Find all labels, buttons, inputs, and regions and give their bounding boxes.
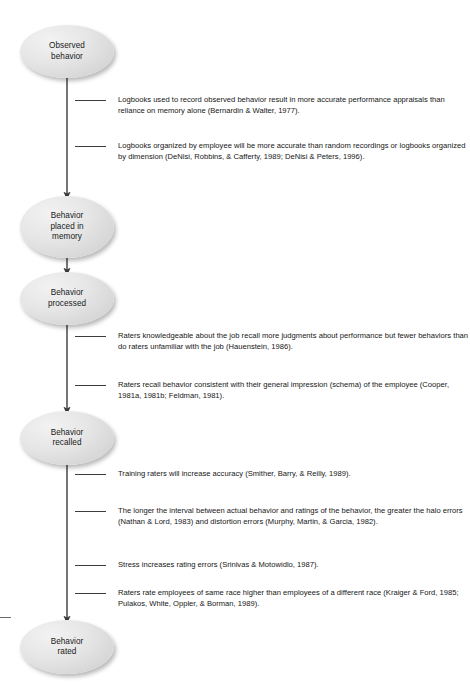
annotation-text: Logbooks organized by employee will be m… <box>118 141 470 162</box>
node-behavior-rated[interactable]: Behaviorrated <box>20 620 114 674</box>
node-behavior-processed[interactable]: Behaviorprocessed <box>20 272 114 325</box>
page-edge-mark <box>0 617 11 618</box>
annotation-text: Raters rate employees of same race highe… <box>118 588 470 609</box>
node-behavior-recalled-label: Behaviorrecalled <box>51 428 84 449</box>
annotation-text: Raters knowledgeable about the job recal… <box>118 331 470 352</box>
annotation-text: Raters recall behavior consistent with t… <box>118 380 470 401</box>
annotation-text: Training raters will increase accuracy (… <box>118 469 470 480</box>
annotation-tick-icon <box>75 565 106 566</box>
annotation-tick-icon <box>75 385 106 386</box>
annotation-tick-icon <box>75 336 106 337</box>
node-behavior-recalled[interactable]: Behaviorrecalled <box>20 411 114 465</box>
node-behavior-placed-in-memory-label: Behaviorplaced inmemory <box>50 211 83 242</box>
annotation-tick-icon <box>75 474 106 475</box>
annotation-tick-icon <box>75 100 106 101</box>
annotation-tick-icon <box>75 511 106 512</box>
node-observed-behavior[interactable]: Observedbehavior <box>20 25 114 78</box>
annotation-text: Logbooks used to record observed behavio… <box>118 95 470 116</box>
annotation-text: Stress increases rating errors (Srinivas… <box>118 560 470 571</box>
annotation-tick-icon <box>75 593 106 594</box>
node-observed-behavior-label: Observedbehavior <box>49 41 85 62</box>
node-behavior-processed-label: Behaviorprocessed <box>48 288 86 309</box>
annotation-tick-icon <box>75 146 106 147</box>
node-behavior-placed-in-memory[interactable]: Behaviorplaced inmemory <box>20 196 114 258</box>
annotation-text: The longer the interval between actual b… <box>118 506 470 527</box>
node-behavior-rated-label: Behaviorrated <box>51 637 84 658</box>
